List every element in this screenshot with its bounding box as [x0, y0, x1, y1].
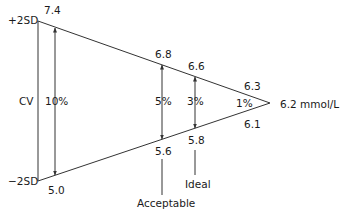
upper-value-1pct: 6.3 [244, 80, 261, 92]
acceptable-label: Acceptable [137, 197, 195, 209]
cv-precision-diagram: +2SD −2SD CV 7.4 5.0 10% 6.8 5.6 5% 6.6 … [0, 0, 340, 213]
lower-value-10pct: 5.0 [48, 184, 65, 196]
lower-value-1pct: 6.1 [244, 118, 261, 130]
cv-label: CV [19, 95, 34, 107]
upper-value-3pct: 6.6 [188, 60, 205, 72]
lower-value-5pct: 5.6 [155, 145, 172, 157]
target-value-label: 6.2 mmol/L [280, 98, 339, 110]
minus-2sd-label: −2SD [8, 175, 38, 187]
upper-value-5pct: 6.8 [155, 48, 172, 60]
lower-value-3pct: 5.8 [188, 134, 205, 146]
cv-1pct-label: 1% [236, 97, 253, 109]
cv-5pct-label: 5% [155, 95, 172, 107]
cv-10pct-label: 10% [45, 95, 68, 107]
upper-value-10pct: 7.4 [44, 4, 61, 16]
cv-3pct-label: 3% [187, 95, 204, 107]
plus-2sd-label: +2SD [8, 14, 38, 26]
ideal-label: Ideal [185, 178, 211, 190]
